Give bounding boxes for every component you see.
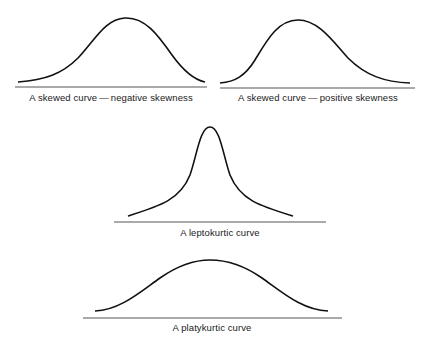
positive-skew-label: A skewed curve — positive skewness <box>238 92 398 103</box>
leptokurtic-curve <box>128 127 293 216</box>
panel-leptokurtic <box>114 127 326 222</box>
leptokurtic-label: A leptokurtic curve <box>180 227 260 238</box>
distribution-shapes-figure <box>0 0 424 349</box>
positive-skew-curve <box>220 20 410 83</box>
panel-negative-skew <box>15 18 207 87</box>
platykurtic-label: A platykurtic curve <box>173 322 252 333</box>
platykurtic-curve <box>95 260 328 311</box>
negative-skew-label: A skewed curve — negative skewness <box>29 92 193 103</box>
panel-positive-skew <box>220 20 415 88</box>
negative-skew-curve <box>18 18 205 82</box>
panel-platykurtic <box>83 260 342 318</box>
